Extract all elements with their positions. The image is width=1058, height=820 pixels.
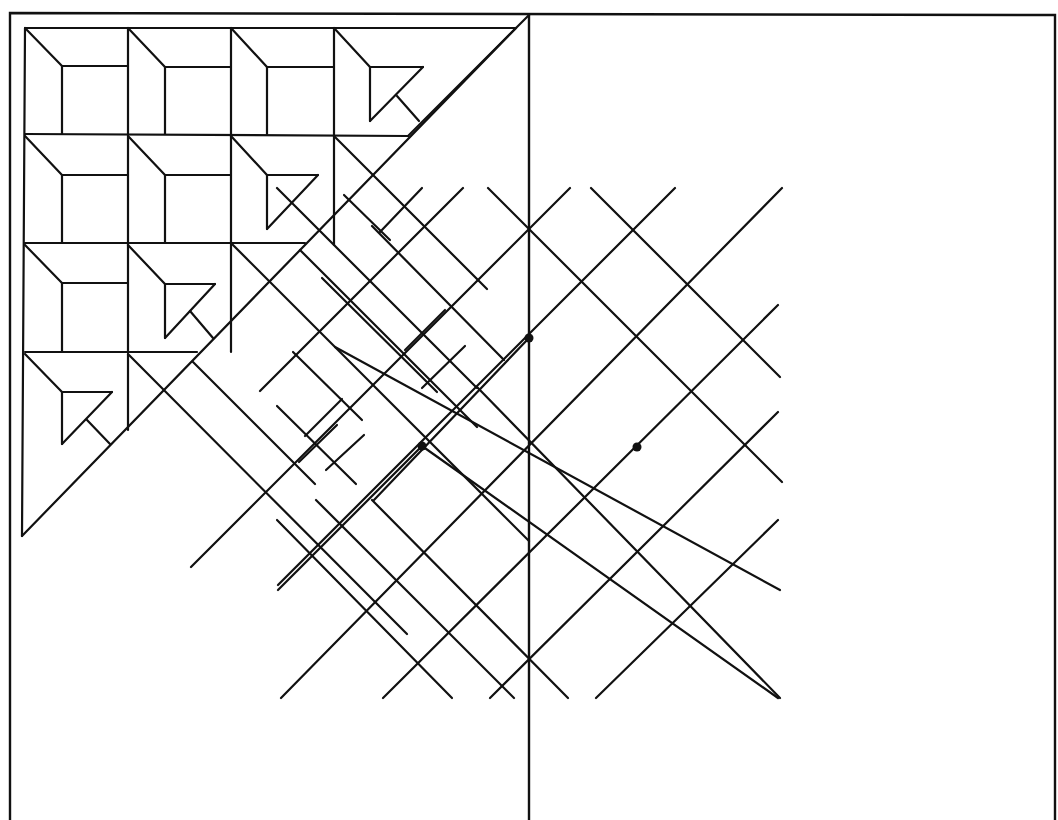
dot-marker <box>525 334 534 343</box>
diagram-line <box>231 28 267 67</box>
diagram-line <box>277 188 477 388</box>
diagram-line <box>408 15 529 136</box>
diagram-line <box>128 245 165 284</box>
diagram-line <box>25 134 408 136</box>
diagram-line <box>305 399 342 436</box>
diagram-line <box>128 28 165 67</box>
diagram-line <box>397 96 419 121</box>
diagram-line <box>326 435 364 470</box>
diagram-line <box>25 28 62 66</box>
diagram-line <box>316 500 514 698</box>
geometric-diagram <box>0 0 1058 820</box>
diagram-line <box>529 229 782 482</box>
diagram-line <box>334 28 370 67</box>
diagram-line <box>596 520 778 698</box>
diagram-line <box>25 245 62 283</box>
line-segments <box>22 15 782 698</box>
diagram-line <box>372 226 504 360</box>
diagram-line <box>128 136 165 175</box>
diagram-line <box>299 425 337 462</box>
diagram-line <box>22 28 25 536</box>
diagram-line <box>190 311 213 338</box>
diagram-line <box>380 188 422 232</box>
dot-marker <box>418 442 427 451</box>
diagram-line <box>193 362 315 484</box>
diagram-line <box>128 354 407 634</box>
diagram-line <box>87 420 110 444</box>
diagram-line <box>383 305 778 698</box>
diagram-line <box>422 346 465 388</box>
diagram-line <box>344 195 390 240</box>
diagram-line <box>231 136 267 175</box>
diagram-line <box>62 392 112 444</box>
diagram-line <box>25 136 62 175</box>
diagram-line <box>25 354 62 392</box>
diagram-line <box>405 310 445 350</box>
dot-marker <box>633 443 642 452</box>
diagram-line <box>370 67 423 121</box>
diagram-line <box>488 188 529 229</box>
diagram-line <box>591 188 780 377</box>
